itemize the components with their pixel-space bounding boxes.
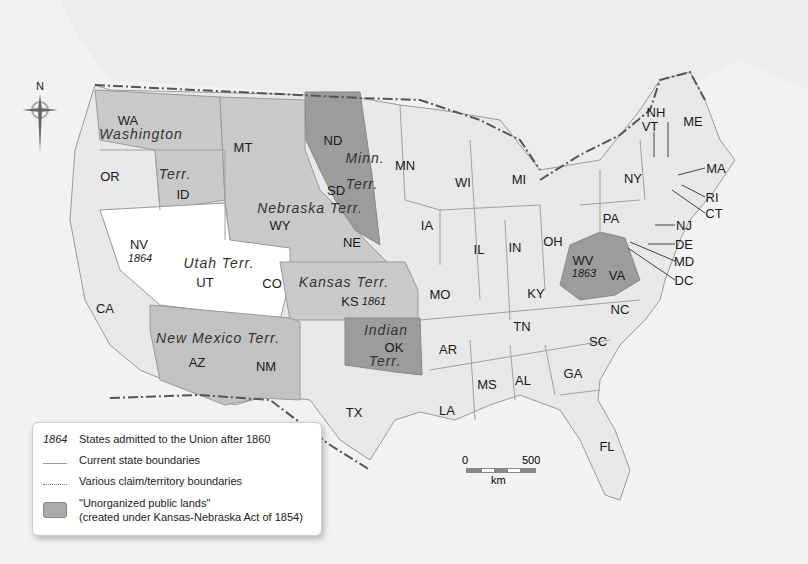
territory-label: Utah Terr. <box>183 255 254 271</box>
dotted-line-icon <box>43 484 67 485</box>
state-label-va: VA <box>609 268 625 283</box>
state-callout-ct: CT <box>705 206 722 221</box>
state-label-nc: NC <box>611 302 630 317</box>
legend-label: States admitted to the Union after 1860 <box>79 433 270 445</box>
territory-label: Terr. <box>159 166 192 182</box>
territory-label: Nebraska Terr. <box>257 200 363 216</box>
state-label-mn: MN <box>395 158 415 173</box>
state-label-oh: OH <box>543 234 563 249</box>
state-label-fl: FL <box>599 439 614 454</box>
territory-label: Minn. <box>345 150 384 166</box>
state-label-sc: SC <box>589 334 607 349</box>
state-label-pa: PA <box>603 211 619 226</box>
state-label-me: ME <box>683 114 703 129</box>
state-label-ia: IA <box>421 218 433 233</box>
svg-text:N: N <box>36 80 44 92</box>
legend-item-current-boundaries: Current state boundaries <box>43 454 200 466</box>
scale-start-label: 0 <box>462 454 468 466</box>
legend-label: Current state boundaries <box>79 454 200 466</box>
state-label-tn: TN <box>513 319 530 334</box>
state-label-ga: GA <box>564 366 583 381</box>
state-label-nh: NH <box>647 105 666 120</box>
solid-line-icon <box>43 463 67 464</box>
territory-label: Washington <box>99 126 183 142</box>
gray-swatch-icon <box>43 502 67 518</box>
state-label-tx: TX <box>346 405 363 420</box>
state-label-ar: AR <box>439 342 457 357</box>
state-label-id: ID <box>177 187 190 202</box>
state-label-wy: WY <box>270 218 291 233</box>
legend-item-admitted: 1864 States admitted to the Union after … <box>43 433 270 445</box>
legend-label: Various claim/territory boundaries <box>79 475 242 487</box>
state-label-co: CO <box>262 276 282 291</box>
scale-unit-label: km <box>491 474 506 486</box>
state-label-ks: KS <box>341 294 358 309</box>
state-label-ca: CA <box>96 301 114 316</box>
scale-end-label: 500 <box>522 454 540 466</box>
territory-label: Terr. <box>346 176 379 192</box>
state-label-ny: NY <box>624 171 642 186</box>
state-callout-ma: MA <box>706 161 726 176</box>
state-label-or: OR <box>100 169 120 184</box>
admission-year-sample: 1864 <box>43 433 73 445</box>
state-label-wv: WV <box>573 253 594 268</box>
admission-year-ks: 1861 <box>362 295 386 307</box>
legend-label: "Unorganized public lands" <box>79 497 210 509</box>
admission-year-wv: 1863 <box>572 267 596 279</box>
state-callout-md: MD <box>674 254 694 269</box>
state-callout-nj: NJ <box>676 218 692 233</box>
state-label-mi: MI <box>512 172 526 187</box>
state-label-vt: VT <box>642 119 659 134</box>
state-label-ut: UT <box>196 275 213 290</box>
territory-label: Terr. <box>369 353 402 369</box>
state-label-az: AZ <box>189 355 206 370</box>
state-label-al: AL <box>515 373 531 388</box>
territory-label: Indian <box>364 322 408 338</box>
admission-year-nv: 1864 <box>128 252 152 264</box>
legend-item-claim-boundaries: Various claim/territory boundaries <box>43 475 242 487</box>
state-callout-dc: DC <box>675 273 694 288</box>
state-label-mo: MO <box>430 287 451 302</box>
map-legend: 1864 States admitted to the Union after … <box>32 422 322 536</box>
state-label-nm: NM <box>256 359 276 374</box>
territory-label: New Mexico Terr. <box>156 330 280 346</box>
state-label-sd: SD <box>327 183 345 198</box>
state-label-in: IN <box>509 240 522 255</box>
legend-item-unorganized-lands: "Unorganized public lands" (created unde… <box>43 496 303 524</box>
scale-bar-graphic <box>466 468 536 473</box>
state-callout-de: DE <box>675 237 693 252</box>
state-label-la: LA <box>439 403 455 418</box>
north-arrow-icon: N <box>20 80 60 160</box>
state-label-nd: ND <box>324 133 343 148</box>
state-label-mt: MT <box>234 140 253 155</box>
territory-label: Kansas Terr. <box>299 274 389 290</box>
state-label-wi: WI <box>455 175 471 190</box>
state-label-ky: KY <box>527 286 544 301</box>
legend-label-sub: (created under Kansas-Nebraska Act of 18… <box>79 511 303 523</box>
state-callout-ri: RI <box>706 190 719 205</box>
state-label-nv: NV <box>130 237 148 252</box>
state-label-ne: NE <box>343 235 361 250</box>
state-label-il: IL <box>474 242 485 257</box>
state-label-ms: MS <box>477 377 497 392</box>
compass-rose: N <box>20 80 60 160</box>
